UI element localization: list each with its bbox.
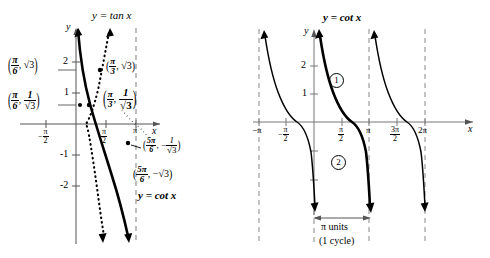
cot-curve-label: y = cot x [138, 190, 176, 201]
label-point-pi3-inv-sqrt3: (π3, 1√3) [103, 88, 136, 111]
cot-graph-title: y = cot x [323, 12, 361, 23]
left-x-axis-label: x [152, 126, 156, 136]
dot-pi6-inv-sqrt3 [78, 103, 82, 107]
right-y-axis-arrow [311, 29, 316, 37]
cot-branch-neg1-top-arrow [260, 30, 268, 39]
cotangent-panel: y = cot x y x 2 1 −π −π2 π2 π 3π2 [245, 0, 490, 258]
right-xtick-3pi-2: 3π2 [390, 126, 400, 143]
label-point-pi3-sqrt3: (π3, √3) [106, 57, 135, 76]
label-point-5pi6-neg-inv-sqrt3: (5π6, −1√3) [143, 136, 180, 155]
left-ytick-neg2: -2 [60, 180, 68, 190]
cot-curve-bottom-arrow [124, 233, 132, 243]
right-xtick-pi-2: π2 [338, 126, 344, 143]
cot-branch-main [320, 36, 370, 206]
cycle-label-line2: (1 cycle) [319, 236, 354, 246]
left-xtick-pi-2: π2 [101, 128, 107, 145]
right-xtick-pi: π [366, 126, 371, 135]
cot-branch-pos2-bottom-arrow [421, 202, 429, 212]
label-point-pi6-sqrt3: (π6, √3) [8, 55, 38, 76]
right-xtick-neg-pi: −π [252, 126, 262, 135]
right-ytick-1: 1 [302, 88, 307, 98]
dot-pi3-inv-sqrt3 [87, 103, 91, 107]
tan-curve-bottom-arrow [99, 233, 107, 243]
cot-branch-pos2 [375, 36, 425, 206]
branch-marker-1: 1 [329, 73, 344, 88]
tangent-cotangent-panel: y = tan x y = cot x y x 2 1 -1 -2 −π2 π2 [0, 0, 245, 258]
right-y-axis-label: y [304, 26, 308, 36]
branch-marker-2: 2 [331, 155, 346, 170]
right-xtick-neg-pi-2: −π2 [278, 126, 289, 143]
cot-branch-neg1 [265, 36, 315, 206]
left-xtick-pi: π [133, 127, 137, 135]
tan-curve-top-arrow [106, 28, 114, 37]
right-x-axis-label: x [468, 124, 472, 134]
dot-5pi6-neg-inv-sqrt3 [126, 141, 130, 145]
left-ytick-1: 1 [64, 87, 69, 97]
right-ytick-2: 2 [301, 60, 306, 70]
left-ytick-2: 2 [63, 56, 68, 66]
left-graph-svg [0, 0, 245, 258]
tan-curve-label: y = tan x [92, 10, 132, 21]
cot-branch-neg1-bottom-arrow [311, 202, 319, 212]
cycle-label-line1: π units [321, 222, 348, 232]
right-xtick-2pi: 2π [418, 126, 427, 135]
left-ytick-neg1: -1 [60, 149, 68, 159]
cot-branch-pos2-top-arrow [370, 30, 378, 39]
dot-pi3-sqrt3 [98, 68, 102, 72]
cycle-measure-right-arrow [363, 215, 371, 220]
left-y-axis-label: y [66, 22, 70, 32]
label-point-pi6-inv-sqrt3: (π6, 1√3) [8, 90, 40, 111]
cot-branch-main-top-arrow [315, 29, 324, 39]
figure-root: y = tan x y = cot x y x 2 1 -1 -2 −π2 π2 [0, 0, 490, 258]
cot-branch-main-bottom-arrow [366, 203, 375, 213]
label-point-5pi6-neg-sqrt3: (5π6, −√3) [133, 165, 172, 184]
left-xtick-neg-pi-2: −π2 [38, 128, 49, 145]
